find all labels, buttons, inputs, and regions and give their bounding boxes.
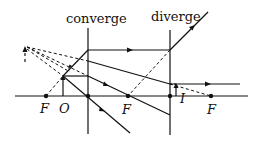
ray-4 bbox=[63, 76, 130, 133]
converging-lens-centre bbox=[86, 94, 90, 98]
focal-point-left bbox=[44, 94, 48, 98]
image-label: I bbox=[179, 91, 186, 106]
object-label: O bbox=[59, 101, 70, 116]
focal-left-label: F bbox=[39, 101, 50, 116]
virtual-rays bbox=[27, 47, 88, 76]
focal-point-middle bbox=[126, 94, 130, 98]
focal-ray-dashed bbox=[46, 76, 63, 96]
focal-middle-label: F bbox=[121, 102, 132, 117]
diverge-label: diverge bbox=[151, 9, 201, 24]
two-lens-ray-diagram: converge diverge F O F I F bbox=[0, 0, 258, 141]
ray-2 bbox=[88, 61, 240, 84]
converge-label: converge bbox=[66, 11, 127, 26]
focal-right-label: F bbox=[206, 102, 217, 117]
focal-point-right bbox=[209, 94, 213, 98]
diverging-lens-centre bbox=[168, 94, 172, 98]
ray-1-virtual bbox=[128, 50, 170, 96]
